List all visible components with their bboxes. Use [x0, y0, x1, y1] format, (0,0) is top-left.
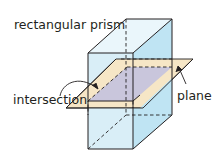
- plane-label: plane: [177, 88, 212, 103]
- prism-label: rectangular prism: [14, 17, 125, 32]
- prism-plane-intersection-diagram: rectangular prism intersection plane: [0, 0, 216, 157]
- intersection-label: intersection: [13, 92, 87, 107]
- plane-arrow: [176, 66, 186, 84]
